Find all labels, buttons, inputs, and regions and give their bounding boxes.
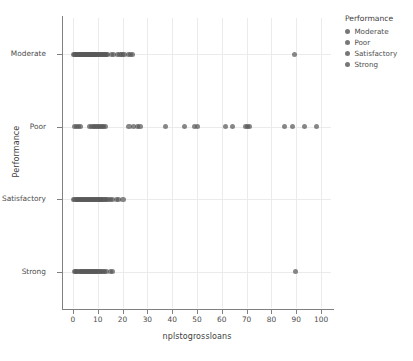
legend-swatch-icon [345, 29, 350, 34]
plot-panel [63, 18, 331, 308]
x-tick-label-40: 40 [160, 316, 184, 324]
x-tick-mark-100 [321, 310, 322, 314]
legend-item-poor[interactable]: Poor [345, 37, 413, 48]
legend-title: Performance [345, 14, 413, 23]
legend-item-label: Poor [354, 38, 370, 47]
y-tick-mark-strong [57, 272, 62, 273]
x-tick-mark-90 [296, 310, 297, 314]
data-point [247, 124, 252, 129]
data-point [230, 124, 235, 129]
legend-item-label: Moderate [354, 27, 388, 36]
gridline-vertical-30 [147, 18, 148, 308]
gridline-vertical-90 [296, 18, 297, 308]
data-point [195, 124, 200, 129]
data-point [292, 52, 297, 57]
legend-item-strong[interactable]: Strong [345, 59, 413, 70]
gridline-vertical-100 [321, 18, 322, 308]
y-axis-title: Performance [12, 92, 21, 212]
x-axis-title: nplstogrossloans [63, 332, 331, 341]
x-tick-label-30: 30 [135, 316, 159, 324]
gridline-vertical-0 [73, 18, 74, 308]
x-tick-mark-30 [147, 310, 148, 314]
x-tick-label-90: 90 [284, 316, 308, 324]
x-tick-label-20: 20 [111, 316, 135, 324]
y-axis-line [62, 16, 63, 310]
y-axis-tick-labels: ModeratePoorSatisfactoryStrong [0, 0, 55, 361]
gridline-vertical-60 [222, 18, 223, 308]
gridline-vertical-40 [172, 18, 173, 308]
x-tick-label-60: 60 [210, 316, 234, 324]
gridline-vertical-50 [197, 18, 198, 308]
data-point [223, 124, 228, 129]
data-point [110, 269, 115, 274]
y-tick-label-satisfactory: Satisfactory [2, 195, 46, 203]
scatter-plot-figure: ModeratePoorSatisfactoryStrong Performan… [0, 0, 413, 361]
legend-item-label: Strong [354, 60, 378, 69]
x-tick-mark-60 [222, 310, 223, 314]
y-tick-label-poor: Poor [30, 123, 46, 131]
x-tick-label-50: 50 [185, 316, 209, 324]
data-point [282, 124, 287, 129]
data-point [290, 124, 295, 129]
data-point [182, 124, 187, 129]
x-tick-label-80: 80 [259, 316, 283, 324]
gridline-vertical-70 [247, 18, 248, 308]
data-point [302, 124, 307, 129]
gridline-vertical-80 [271, 18, 272, 308]
legend-item-label: Satisfactory [354, 49, 397, 58]
legend: Performance ModeratePoorSatisfactoryStro… [345, 14, 413, 70]
y-tick-mark-satisfactory [57, 199, 62, 200]
data-point [314, 124, 319, 129]
gridline-vertical-10 [98, 18, 99, 308]
data-point [78, 124, 83, 129]
legend-swatch-icon [345, 40, 350, 45]
legend-item-moderate[interactable]: Moderate [345, 26, 413, 37]
x-tick-mark-40 [172, 310, 173, 314]
data-point [137, 124, 142, 129]
data-point [130, 52, 135, 57]
legend-item-satisfactory[interactable]: Satisfactory [345, 48, 413, 59]
x-axis-line [62, 309, 334, 310]
x-tick-mark-10 [98, 310, 99, 314]
gridline-vertical-20 [123, 18, 124, 308]
x-tick-mark-20 [123, 310, 124, 314]
data-point [120, 197, 125, 202]
y-tick-label-strong: Strong [22, 268, 46, 276]
legend-swatch-icon [345, 62, 350, 67]
legend-swatch-icon [345, 51, 350, 56]
x-tick-label-10: 10 [86, 316, 110, 324]
x-tick-mark-80 [271, 310, 272, 314]
data-point [103, 124, 108, 129]
y-tick-label-moderate: Moderate [11, 50, 46, 58]
x-tick-label-100: 100 [309, 316, 333, 324]
x-tick-mark-0 [73, 310, 74, 314]
x-tick-mark-70 [247, 310, 248, 314]
x-tick-mark-50 [197, 310, 198, 314]
y-tick-mark-moderate [57, 54, 62, 55]
x-tick-label-0: 0 [61, 316, 85, 324]
x-tick-label-70: 70 [235, 316, 259, 324]
y-tick-mark-poor [57, 127, 62, 128]
data-point [163, 124, 168, 129]
legend-items: ModeratePoorSatisfactoryStrong [345, 26, 413, 70]
